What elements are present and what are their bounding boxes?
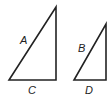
- large-triangle: [9, 7, 56, 80]
- label-d: D: [85, 84, 93, 96]
- triangles-diagram: A C B D: [0, 0, 110, 100]
- label-a: A: [19, 34, 27, 46]
- label-c: C: [28, 84, 36, 96]
- label-b: B: [78, 42, 85, 54]
